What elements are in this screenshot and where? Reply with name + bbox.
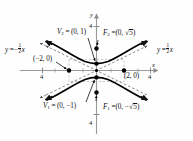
tick-x-right: 4: [148, 73, 151, 80]
vertex-lower-subscript: 1: [47, 105, 49, 110]
point-left: [67, 68, 71, 72]
asymptote-right-label: y =12x: [157, 43, 173, 55]
asymptote-right-var: x: [170, 46, 173, 54]
point-vertex-upper: [94, 61, 98, 65]
focus-lower-open: (0, −: [115, 103, 128, 111]
radicand: 5: [129, 29, 133, 37]
asymptote-left-var: x: [22, 46, 25, 54]
asymptote-left-lhs: y: [5, 46, 8, 54]
vertex-upper-subscript: 2: [61, 31, 63, 36]
focus-upper-subscript: 2: [107, 32, 109, 37]
x-axis-label: x: [152, 61, 155, 68]
radical-icon: √5: [129, 103, 137, 111]
vertex-lower-eq: =: [51, 102, 55, 110]
focus-upper-open: (0,: [115, 29, 124, 37]
graph-canvas: [0, 0, 193, 141]
focus-upper-label: F2 =(0, √5): [103, 29, 135, 37]
vertex-lower-value: (0, −1): [57, 102, 76, 110]
asymptote-right-lhs: y: [157, 46, 160, 54]
tick-y-bottom: 4: [89, 119, 92, 126]
focus-upper-close: ): [133, 29, 135, 37]
vertex-upper-label: V2 = (0, 1): [57, 29, 86, 36]
point-vertex-lower: [94, 75, 98, 79]
asymptote-left-label: y =−12x: [5, 43, 25, 55]
radicand: 5: [133, 103, 137, 111]
y-axis-label: y: [90, 11, 93, 18]
focus-lower-label: F1 =(0, −√5): [103, 103, 139, 111]
vertex-upper-value: (0, 1): [71, 28, 86, 36]
point-center: [95, 69, 98, 72]
vertex-lower-label: V1 = (0, −1): [43, 103, 76, 110]
focus-lower-close: ): [137, 103, 139, 111]
tick-y-top: 4: [89, 22, 92, 29]
point-focus-lower: [94, 90, 98, 94]
point-left-label: (−2, 0): [33, 56, 52, 63]
focus-lower-subscript: 1: [107, 106, 109, 111]
point-focus-upper: [94, 46, 98, 50]
vertex-upper-eq: =: [65, 28, 69, 36]
hyperbola-figure: y x 4 4 4 4 y =−12x y =12x V2 = (0, 1) F…: [0, 0, 193, 141]
radical-icon: √5: [125, 29, 133, 37]
tick-x-left: 4: [40, 73, 43, 80]
point-right-label: (2, 0): [124, 73, 139, 80]
